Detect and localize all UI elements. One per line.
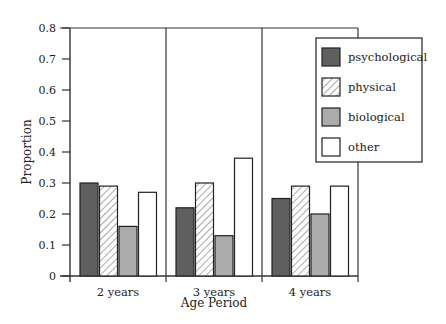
y-tick-label: 0.3 — [39, 177, 57, 190]
legend-label-psychological: psychological — [348, 50, 427, 64]
legend-label-other: other — [348, 140, 380, 154]
y-axis-label: Proportion — [20, 119, 34, 185]
bar-biological — [119, 226, 137, 276]
bar-psychological — [176, 208, 194, 276]
y-tick-label: 0.8 — [39, 22, 57, 35]
legend: psychologicalphysicalbiologicalother — [316, 38, 427, 162]
bar-physical — [292, 186, 310, 276]
y-tick-label: 0 — [49, 270, 56, 283]
bar-chart: 00.10.20.30.40.50.60.70.82 years3 years4… — [0, 0, 446, 324]
bar-psychological — [272, 199, 290, 277]
y-tick-label: 0.7 — [39, 53, 57, 66]
bar-biological — [311, 214, 329, 276]
y-tick-label: 0.5 — [39, 115, 57, 128]
bars — [80, 158, 349, 276]
chart-canvas: 00.10.20.30.40.50.60.70.82 years3 years4… — [0, 0, 446, 324]
y-tick-label: 0.6 — [39, 84, 57, 97]
y-tick-label: 0.1 — [39, 239, 57, 252]
bar-physical — [100, 186, 118, 276]
legend-swatch-other — [322, 138, 340, 156]
x-tick-label: 2 years — [97, 285, 140, 299]
legend-swatch-biological — [322, 108, 340, 126]
legend-label-physical: physical — [348, 80, 396, 94]
bar-other — [331, 186, 349, 276]
x-tick-label: 4 years — [289, 285, 332, 299]
bar-physical — [196, 183, 214, 276]
legend-label-biological: biological — [348, 110, 405, 124]
bar-biological — [215, 236, 233, 276]
y-tick-label: 0.4 — [39, 146, 57, 159]
y-tick-label: 0.2 — [39, 208, 57, 221]
bar-other — [235, 158, 253, 276]
legend-swatch-psychological — [322, 48, 340, 66]
x-axis-label: Age Period — [180, 296, 248, 310]
legend-swatch-physical — [322, 78, 340, 96]
bar-other — [139, 192, 157, 276]
bar-psychological — [80, 183, 98, 276]
